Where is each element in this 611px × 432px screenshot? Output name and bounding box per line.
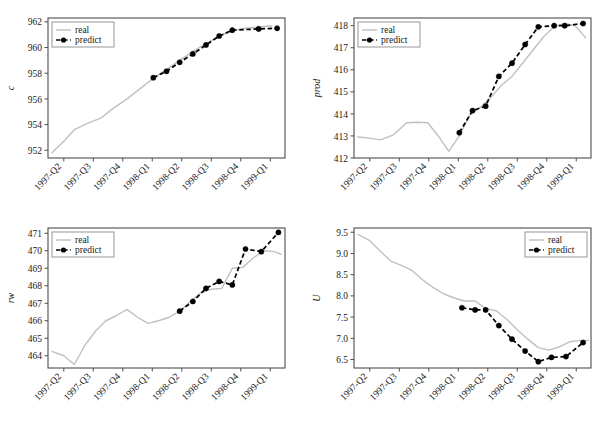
- x-tick-label: 1997-Q3: [62, 371, 93, 402]
- x-tick-label: 1998-Q1: [121, 371, 152, 402]
- legend-marker-predict: [61, 37, 66, 42]
- legend-marker-predict: [367, 37, 372, 42]
- x-tick-label: 1997-Q2: [338, 161, 369, 192]
- x-tick-label: 1998-Q1: [427, 371, 458, 402]
- x-tick-label: 1997-Q3: [62, 161, 93, 192]
- x-tick-label: 1998-Q2: [150, 371, 181, 402]
- y-tick-label: 412: [334, 154, 349, 164]
- x-tick-label: 1998-Q3: [486, 371, 517, 402]
- y-tick-label: 962: [28, 17, 43, 27]
- x-tick-label: 1997-Q2: [338, 371, 369, 402]
- x-tick-label: 1998-Q4: [515, 161, 546, 192]
- x-tick-label: 1997-Q2: [32, 161, 63, 192]
- x-tick-label: 1998-Q3: [180, 161, 211, 192]
- series-line-predict: [153, 28, 277, 77]
- data-point-marker: [552, 23, 557, 28]
- y-tick-label: 417: [334, 43, 349, 53]
- x-tick-label: 1999-Q1: [239, 161, 270, 192]
- data-point-marker: [230, 28, 235, 33]
- data-point-marker: [473, 307, 478, 312]
- panel-rw: 4644654664674684694704711997-Q21997-Q319…: [0, 216, 306, 432]
- y-tick-label: 6.5: [336, 355, 348, 365]
- x-tick-label: 1997-Q4: [397, 161, 428, 192]
- x-tick-label: 1998-Q2: [456, 371, 487, 402]
- figure-root: 9529549569589609621997-Q21997-Q31997-Q41…: [0, 0, 611, 432]
- x-tick-label: 1997-Q3: [368, 161, 399, 192]
- data-point-marker: [230, 282, 235, 287]
- data-point-marker: [536, 24, 541, 29]
- x-tick-label: 1997-Q4: [91, 161, 122, 192]
- legend-marker-predict: [534, 247, 539, 252]
- y-tick-label: 960: [28, 43, 43, 53]
- legend-label-real: real: [548, 235, 563, 245]
- panel-U-canvas: 6.57.07.58.08.59.09.51997-Q21997-Q31997-…: [306, 216, 611, 432]
- data-point-marker: [164, 69, 169, 74]
- data-point-marker: [470, 108, 475, 113]
- y-tick-label: 9.0: [336, 249, 348, 259]
- data-point-marker: [276, 230, 281, 235]
- y-tick-label: 466: [28, 316, 43, 326]
- legend-label-real: real: [381, 25, 396, 35]
- legend-label-real: real: [75, 235, 90, 245]
- y-tick-label: 952: [28, 146, 43, 156]
- data-point-marker: [190, 51, 195, 56]
- data-point-marker: [203, 42, 208, 47]
- legend: realpredict: [52, 232, 114, 257]
- x-tick-label: 1997-Q4: [397, 371, 428, 402]
- x-tick-label: 1997-Q2: [32, 371, 63, 402]
- data-point-marker: [509, 337, 514, 342]
- y-axis-label: c: [5, 85, 16, 90]
- panel-prod-canvas: 4124134144154164174181997-Q21997-Q31997-…: [306, 0, 611, 216]
- x-tick-label: 1998-Q4: [515, 371, 546, 402]
- data-point-marker: [496, 323, 501, 328]
- y-tick-label: 414: [334, 110, 349, 120]
- data-point-marker: [509, 61, 514, 66]
- y-tick-label: 8.5: [336, 270, 348, 280]
- legend-label-predict: predict: [75, 35, 102, 45]
- data-point-marker: [203, 286, 208, 291]
- x-tick-label: 1998-Q1: [121, 161, 152, 192]
- data-point-marker: [177, 309, 182, 314]
- legend-label-predict: predict: [75, 245, 102, 255]
- y-tick-label: 954: [28, 120, 43, 130]
- data-point-marker: [259, 249, 264, 254]
- data-point-marker: [523, 42, 528, 47]
- data-point-marker: [243, 246, 248, 251]
- y-tick-label: 956: [28, 95, 43, 105]
- y-axis-label: U: [311, 294, 322, 302]
- data-point-marker: [256, 26, 261, 31]
- panel-rw-canvas: 4644654664674684694704711997-Q21997-Q319…: [0, 216, 306, 432]
- y-axis-label: prod: [311, 78, 322, 99]
- y-tick-label: 7.5: [336, 313, 348, 323]
- x-tick-label: 1999-Q1: [545, 371, 576, 402]
- y-tick-label: 9.5: [336, 228, 348, 238]
- data-point-marker: [581, 340, 586, 345]
- legend-label-real: real: [75, 25, 90, 35]
- data-point-marker: [536, 359, 541, 364]
- y-tick-label: 416: [334, 65, 349, 75]
- data-point-marker: [275, 26, 280, 31]
- data-point-marker: [549, 355, 554, 360]
- x-tick-label: 1997-Q4: [91, 371, 122, 402]
- x-tick-label: 1998-Q3: [486, 161, 517, 192]
- x-tick-label: 1998-Q4: [209, 161, 240, 192]
- panel-c: 9529549569589609621997-Q21997-Q31997-Q41…: [0, 0, 306, 216]
- y-tick-label: 7.0: [336, 334, 348, 344]
- y-tick-label: 470: [28, 246, 43, 256]
- legend-label-predict: predict: [381, 35, 408, 45]
- data-point-marker: [563, 354, 568, 359]
- x-tick-label: 1998-Q1: [427, 161, 458, 192]
- x-tick-label: 1999-Q1: [545, 161, 576, 192]
- series-line-predict: [459, 24, 583, 133]
- panel-prod: 4124134144154164174181997-Q21997-Q31997-…: [306, 0, 611, 216]
- data-point-marker: [190, 299, 195, 304]
- data-point-marker: [217, 33, 222, 38]
- data-point-marker: [483, 104, 488, 109]
- panel-U: 6.57.07.58.08.59.09.51997-Q21997-Q31997-…: [306, 216, 611, 432]
- legend: realpredict: [525, 232, 587, 257]
- y-axis-label: rw: [5, 292, 16, 303]
- data-point-marker: [483, 307, 488, 312]
- x-tick-label: 1999-Q1: [239, 371, 270, 402]
- y-tick-label: 418: [334, 21, 349, 31]
- data-point-marker: [562, 23, 567, 28]
